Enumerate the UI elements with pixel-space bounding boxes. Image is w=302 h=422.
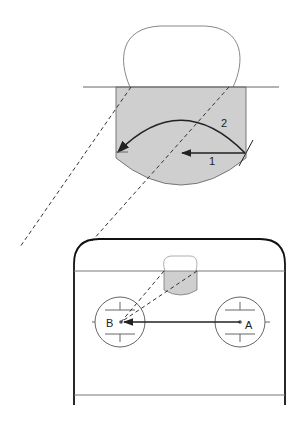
label-1: 1 [209, 155, 215, 167]
top-detail: 2 1 [83, 26, 279, 185]
diagram-svg: 2 1 [0, 0, 302, 422]
label-b: B [106, 317, 113, 329]
bottom-detail: B A [74, 239, 285, 405]
label-a: A [245, 319, 253, 331]
diagram-canvas: 2 1 [0, 0, 302, 422]
label-2: 2 [221, 117, 227, 129]
small-blob [164, 256, 197, 271]
top-blob [124, 26, 240, 87]
small-cavity [164, 271, 197, 295]
